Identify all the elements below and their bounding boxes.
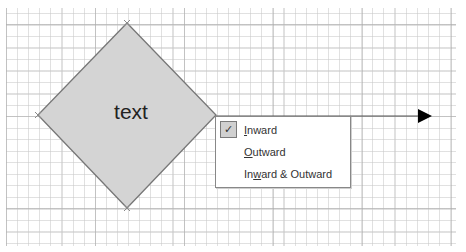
checkmark-icon: ✓ bbox=[220, 121, 237, 138]
menu-item-inward-outward[interactable]: Inward & Outward bbox=[216, 164, 350, 184]
menu-item-label: Outward bbox=[244, 142, 286, 162]
arrowhead-icon bbox=[418, 109, 432, 123]
shape-label: text bbox=[96, 100, 166, 124]
context-menu: ✓ Inward Outward Inward & Outward bbox=[215, 116, 351, 188]
menu-item-outward[interactable]: Outward bbox=[216, 142, 350, 162]
menu-item-label: Inward & Outward bbox=[244, 164, 332, 184]
menu-item-inward[interactable]: ✓ Inward bbox=[216, 120, 350, 140]
menu-item-label: Inward bbox=[244, 120, 277, 140]
drawing-canvas[interactable]: text ✓ Inward Outward Inward & Outward bbox=[0, 0, 466, 252]
